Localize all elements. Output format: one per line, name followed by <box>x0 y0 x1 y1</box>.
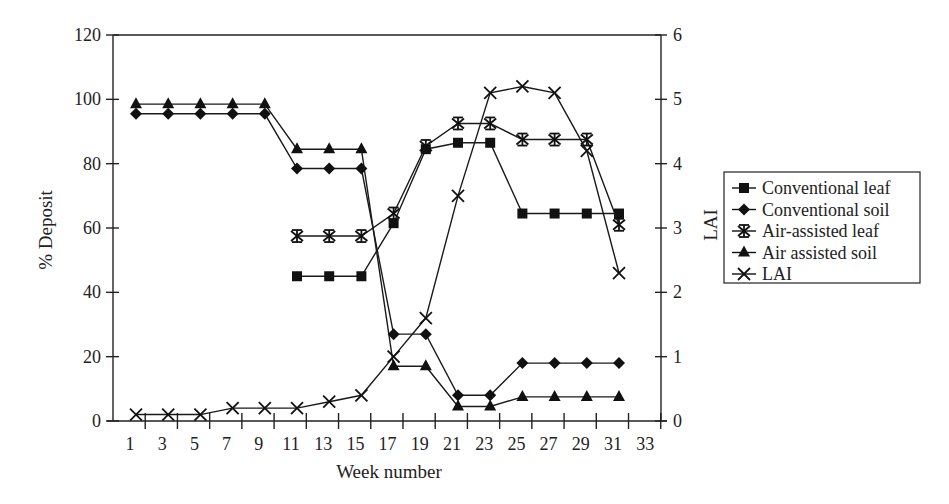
x-tick-label: 31 <box>604 434 622 454</box>
x-marker-icon <box>420 312 432 324</box>
x-tick-label: 17 <box>379 434 397 454</box>
diamond-marker-icon <box>162 108 174 120</box>
y-tick-label: 100 <box>74 89 101 109</box>
y-tick-label: 40 <box>83 282 101 302</box>
y-tick-label: 120 <box>74 25 101 45</box>
x-tick-label: 7 <box>222 434 231 454</box>
series-conventional-leaf <box>292 138 624 281</box>
triangle-marker-icon <box>194 97 206 108</box>
x-marker-icon <box>516 80 528 92</box>
legend: Conventional leafConventional soilAir-as… <box>724 172 920 284</box>
square-marker-icon <box>485 138 495 148</box>
legend-label: Conventional soil <box>762 200 890 220</box>
legend-label: LAI <box>762 264 792 284</box>
x-marker-icon <box>452 190 464 202</box>
diamond-marker-icon <box>355 162 367 174</box>
y2-tick-label: 5 <box>673 89 682 109</box>
legend-label: Air-assisted leaf <box>762 221 879 241</box>
x-marker-icon <box>323 396 335 408</box>
x-axis-title: Week number <box>336 461 442 482</box>
x-tick-label: 27 <box>540 434 558 454</box>
square-marker-icon <box>739 183 749 193</box>
diamond-marker-icon <box>613 357 625 369</box>
legend-label: Air assisted soil <box>762 243 877 263</box>
square-marker-icon <box>517 209 527 219</box>
triangle-marker-icon <box>355 142 367 153</box>
series-layer <box>130 80 625 420</box>
square-marker-icon <box>453 138 463 148</box>
triangle-marker-icon <box>516 390 528 401</box>
square-marker-icon <box>324 271 334 281</box>
y-axis-title: % Deposit <box>35 189 56 269</box>
x-tick-label: 11 <box>282 434 299 454</box>
y2-tick-label: 0 <box>673 411 682 431</box>
square-marker-icon <box>550 209 560 219</box>
legend-label: Conventional leaf <box>762 178 890 198</box>
diamond-marker-icon <box>323 162 335 174</box>
x-tick-label: 9 <box>254 434 263 454</box>
triangle-marker-icon <box>549 390 561 401</box>
x-tick-label: 23 <box>475 434 493 454</box>
square-marker-icon <box>292 271 302 281</box>
x-tick-label: 29 <box>572 434 590 454</box>
x-marker-icon <box>355 389 367 401</box>
series-air-assisted-leaf <box>291 117 625 242</box>
diamond-marker-icon <box>581 357 593 369</box>
y2-tick-label: 2 <box>673 282 682 302</box>
x-marker-icon <box>613 267 625 279</box>
y-tick-label: 80 <box>83 154 101 174</box>
triangle-marker-icon <box>323 142 335 153</box>
x-tick-label: 19 <box>411 434 429 454</box>
x-tick-label: 25 <box>507 434 525 454</box>
x-marker-icon <box>484 87 496 99</box>
y2-tick-label: 6 <box>673 25 682 45</box>
x-tick-label: 21 <box>443 434 461 454</box>
triangle-marker-icon <box>420 359 432 370</box>
right-y-axis: 0123456 <box>655 25 682 431</box>
x-tick-label: 1 <box>126 434 135 454</box>
y2-tick-label: 4 <box>673 154 682 174</box>
triangle-marker-icon <box>130 97 142 108</box>
square-marker-icon <box>356 271 366 281</box>
x-tick-label: 33 <box>636 434 654 454</box>
y-tick-label: 20 <box>83 347 101 367</box>
y-tick-label: 60 <box>83 218 101 238</box>
x-tick-label: 13 <box>314 434 332 454</box>
triangle-marker-icon <box>227 97 239 108</box>
y-tick-label: 0 <box>92 411 101 431</box>
x-tick-label: 15 <box>346 434 364 454</box>
triangle-marker-icon <box>259 97 271 108</box>
asterisk-marker-icon <box>613 219 625 231</box>
triangle-marker-icon <box>162 97 174 108</box>
x-tick-label: 5 <box>190 434 199 454</box>
diamond-marker-icon <box>194 108 206 120</box>
square-marker-icon <box>582 209 592 219</box>
x-tick-label: 3 <box>158 434 167 454</box>
x-marker-icon <box>549 87 561 99</box>
diamond-marker-icon <box>227 108 239 120</box>
y2-tick-label: 3 <box>673 218 682 238</box>
diamond-marker-icon <box>452 389 464 401</box>
y2-tick-label: 1 <box>673 347 682 367</box>
triangle-marker-icon <box>581 390 593 401</box>
y2-axis-title: LAI <box>700 209 721 241</box>
diamond-marker-icon <box>549 357 561 369</box>
dual-axis-line-chart: 020406080100120 0123456 1357911131517192… <box>0 0 949 504</box>
diamond-marker-icon <box>130 108 142 120</box>
triangle-marker-icon <box>613 390 625 401</box>
diamond-marker-icon <box>420 328 432 340</box>
diamond-marker-icon <box>291 162 303 174</box>
left-y-axis: 020406080100120 <box>74 25 119 431</box>
